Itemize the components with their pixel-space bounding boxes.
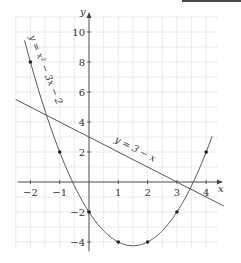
y-tick-label: −2 [70, 207, 85, 218]
data-point [175, 210, 179, 214]
x-axis-label: x [218, 183, 224, 194]
y-tick-label: 10 [72, 27, 85, 38]
y-tick-label: 2 [79, 147, 85, 158]
data-point [204, 150, 208, 154]
y-axis-label: y [79, 6, 86, 17]
data-point [87, 210, 91, 214]
y-tick-label: −4 [70, 237, 85, 248]
data-point [29, 60, 33, 64]
line-label: y = 3 − x [112, 133, 158, 164]
x-tick-label: 3 [174, 187, 180, 198]
data-point [58, 150, 62, 154]
x-tick-label: −1 [52, 187, 67, 198]
y-axis-arrow-icon [87, 12, 92, 18]
data-point [117, 240, 121, 244]
data-point [146, 240, 150, 244]
axes [18, 12, 223, 252]
graph: −2−11234−4−2246810 x y y = x² − 3x − 2 y… [0, 0, 241, 263]
x-tick-label: 1 [115, 187, 121, 198]
y-tick-label: 4 [79, 117, 85, 128]
y-tick-label: 6 [79, 87, 85, 98]
y-tick-label: 8 [79, 57, 85, 68]
x-tick-label: −2 [23, 187, 38, 198]
x-tick-label: 2 [144, 187, 150, 198]
grid [16, 17, 218, 250]
